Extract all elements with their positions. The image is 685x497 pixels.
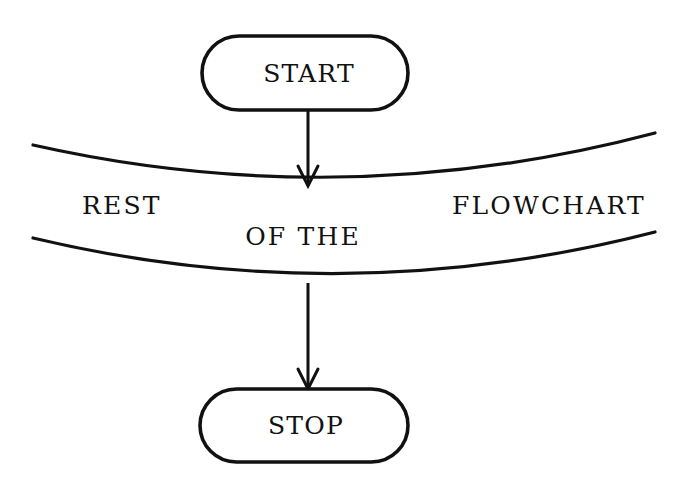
connector-start-to-break <box>298 110 318 186</box>
node-stop[interactable]: STOP <box>200 389 408 462</box>
break-label-flowchart: FLOWCHART <box>452 191 646 220</box>
flowchart-break-region: REST OF THE FLOWCHART <box>33 133 655 274</box>
connector-break-to-stop <box>298 283 318 389</box>
flowchart-figure: START REST OF THE FLOWCHART STOP <box>0 0 685 497</box>
node-start[interactable]: START <box>202 36 408 110</box>
break-label-of-the: OF THE <box>245 222 361 251</box>
stop-label: STOP <box>268 411 344 440</box>
break-curve-top <box>33 133 655 177</box>
flowchart-canvas: START REST OF THE FLOWCHART STOP <box>0 0 685 497</box>
break-label-rest: REST <box>82 191 162 220</box>
start-label: START <box>263 59 355 88</box>
